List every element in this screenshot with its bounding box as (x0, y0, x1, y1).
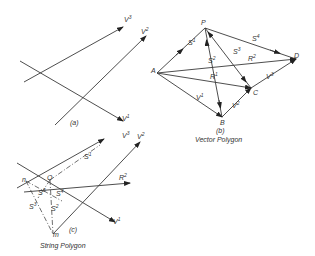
label-s2-c: S2 (51, 203, 59, 212)
label-s3-c2: S3 (29, 201, 37, 210)
label-v1-b: V1 (196, 92, 204, 101)
label-s4-c: S4 (56, 188, 64, 197)
title-string-polygon: String Polygon (40, 242, 86, 250)
vector-v3-line (24, 27, 123, 82)
label-v2-c: V2 (137, 131, 145, 140)
label-s2-b: S2 (208, 55, 216, 64)
caption-a: (a) (70, 119, 79, 127)
vector-v3-line-b (251, 59, 296, 88)
label-v2-b: V2 (232, 100, 240, 109)
title-vector-polygon: Vector Polygon (195, 136, 242, 144)
vector-v3-line-c (17, 139, 104, 188)
label-s3-b: S3 (233, 46, 241, 55)
string-s1-line (50, 145, 100, 180)
caption-c: (c) (69, 226, 77, 234)
label-s1-c: S1 (84, 151, 92, 160)
point-n: n (22, 176, 26, 183)
label-s1-b: S1 (188, 37, 196, 46)
point-p: P (201, 19, 206, 26)
label-r2-b: R2 (248, 53, 256, 62)
vector-r2-line (157, 59, 296, 73)
panel-b: P A B C D S1 S4 S2 S3 R2 R1 V1 V2 V3 (b)… (150, 19, 299, 144)
point-m: m (53, 231, 59, 238)
vector-v1-line (20, 61, 123, 121)
label-v3: V3 (124, 14, 132, 23)
vector-v2-line (55, 36, 146, 125)
label-v2: V2 (141, 26, 149, 35)
label-s4-b: S4 (252, 33, 260, 42)
point-c: C (253, 89, 259, 96)
panel-a: V3 V2 V1 (a) (20, 14, 149, 127)
caption-b: (b) (216, 127, 225, 135)
vector-diagram: V3 V2 V1 (a) P A B C D S1 S4 (0, 0, 315, 256)
label-v1-c: V1 (113, 216, 121, 225)
label-v3-b: V3 (266, 71, 274, 80)
vector-r1-line (157, 73, 251, 88)
label-r2-c: R2 (119, 172, 127, 181)
point-a: A (150, 67, 156, 74)
point-b: B (220, 119, 225, 126)
label-s3-c: S3 (38, 187, 46, 196)
label-r1-b: R1 (210, 71, 218, 80)
label-v3-c: V3 (122, 130, 130, 139)
point-o: O (47, 174, 53, 181)
point-d: D (294, 52, 299, 59)
label-v1: V1 (122, 113, 130, 122)
panel-c: V3 V2 V1 S1 R2 S3 S4 S2 S3 n O m (c) Str… (17, 130, 145, 250)
